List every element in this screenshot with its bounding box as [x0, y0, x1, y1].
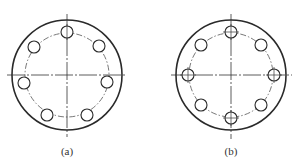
panel-b-flange: [171, 14, 292, 139]
bolt-hole: [101, 76, 113, 88]
bolt-hole: [255, 99, 267, 111]
bolt-hole: [28, 41, 40, 53]
panel-a-caption: (a): [61, 145, 73, 157]
panel-a-flange: [7, 14, 127, 137]
bolt-hole: [41, 109, 53, 121]
bolt-hole: [195, 99, 207, 111]
bolt-hole: [81, 109, 93, 121]
bolt-hole: [255, 39, 267, 51]
bolt-hole: [18, 77, 30, 89]
bolt-hole-diagram: [0, 0, 302, 166]
panel-b-caption: (b): [225, 145, 238, 157]
bolt-hole: [93, 40, 105, 52]
bolt-hole: [195, 39, 207, 51]
